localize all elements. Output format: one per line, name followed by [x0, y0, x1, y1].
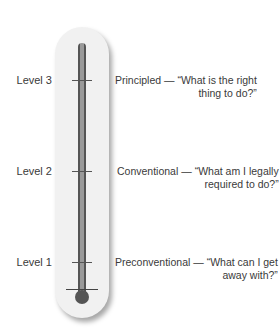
question-line-2: required to do?”	[117, 178, 279, 191]
question-line-2: thing to do?”	[115, 87, 257, 100]
dash: —	[193, 256, 204, 268]
question-line-1: “What can I get	[207, 256, 278, 268]
level-2-label: Level 2	[0, 165, 52, 178]
question-line-1: “What am I legally	[195, 165, 279, 177]
question-line-2: away with?”	[115, 269, 278, 282]
dash: —	[164, 74, 175, 86]
level-3-label: Level 3	[0, 74, 52, 87]
thermometer-base-line	[66, 289, 98, 290]
level-1-description: Preconventional — “What can I get away w…	[115, 256, 278, 282]
thermometer-bulb	[75, 290, 89, 304]
tick-level-2	[72, 171, 92, 172]
tick-level-3	[72, 80, 92, 81]
dash: —	[181, 165, 192, 177]
question-line-1: “What is the right	[177, 74, 256, 86]
tick-level-1	[72, 262, 92, 263]
level-1-label: Level 1	[0, 256, 52, 269]
level-2-description: Conventional — “What am I legally requir…	[117, 165, 279, 191]
stage-name: Preconventional	[115, 256, 190, 268]
level-3-description: Principled — “What is the right thing to…	[115, 74, 257, 100]
stage-name: Principled	[115, 74, 161, 86]
stage-name: Conventional	[117, 165, 178, 177]
